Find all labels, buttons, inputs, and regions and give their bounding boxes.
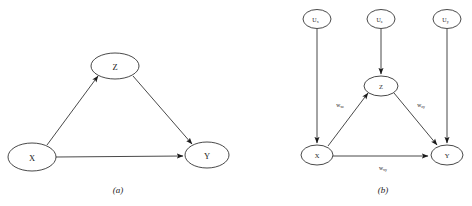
node-z-b: Z [364,76,398,96]
weight-label-zy-sub: zy [421,105,425,109]
node-ux: Ux [303,10,331,29]
node-x-b: X [301,145,333,165]
weight-label-xy-sub: xy [383,168,387,172]
weight-label-xz-sub: xz [340,105,344,109]
edge-x-to-z [47,76,98,145]
edge-z-to-y-weighted [394,93,437,145]
node-uz-label-sub: z [381,19,383,24]
node-x-b-label: X [315,152,320,159]
edge-z-to-y [133,76,192,144]
node-x: X [8,143,56,171]
figure-canvas: X Z Y (a) [0,0,472,206]
panel-b-caption: (b) [378,185,389,195]
panel-a: X Z Y (a) [8,53,229,195]
node-ux-label-sub: x [317,19,319,24]
node-uy: Uy [433,10,461,29]
weight-label-xy: wxy [379,165,387,172]
weight-label-zy: wzy [417,102,425,109]
edge-x-to-y [56,156,183,157]
node-uz: Uz [367,10,395,29]
node-uy-label-sub: y [447,19,449,24]
node-z: Z [91,53,139,79]
node-y-b-label: Y [445,152,450,159]
node-x-label: X [29,153,35,163]
weight-label-xz: wxz [336,102,344,109]
panel-a-caption: (a) [113,185,124,195]
panel-b: Ux Uz Uy X [301,10,463,196]
node-z-label: Z [112,62,117,72]
edge-x-to-z-weighted [328,93,368,146]
node-y: Y [185,142,229,168]
causal-graph-figure: X Z Y (a) [0,0,472,206]
node-y-label: Y [204,151,210,161]
node-z-b-label: Z [379,83,383,90]
node-y-b: Y [431,145,463,165]
